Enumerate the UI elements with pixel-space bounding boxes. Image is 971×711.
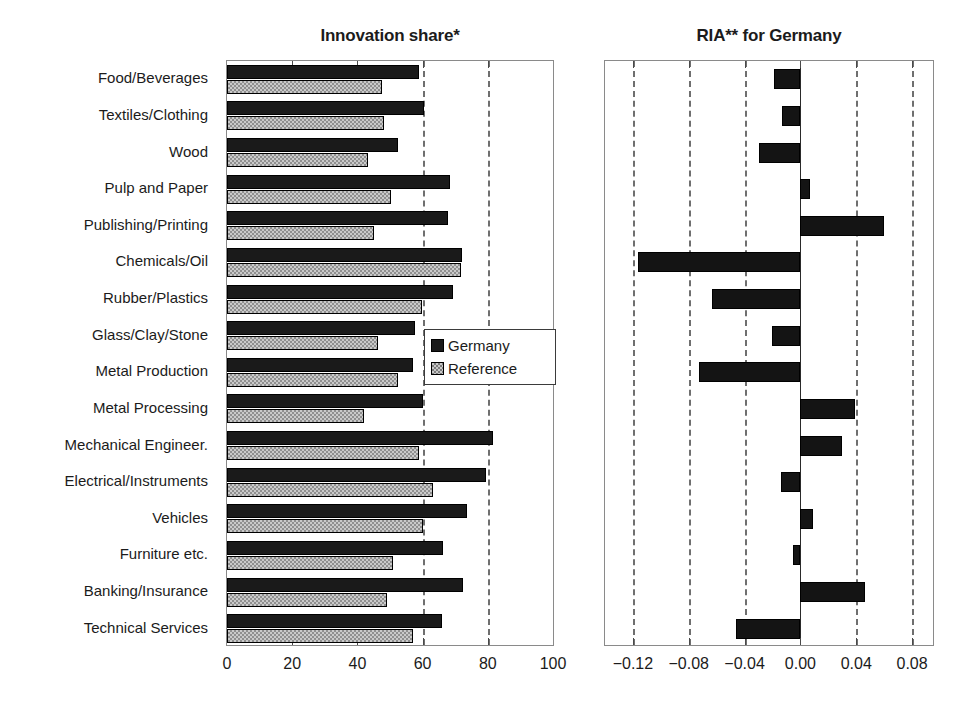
bar-ria (800, 179, 810, 199)
bar-ria (774, 69, 801, 89)
category-label: Food/Beverages (98, 69, 208, 87)
axis-tick-mark (856, 61, 857, 68)
bar-ria (800, 399, 854, 419)
bar-reference (227, 263, 461, 277)
bar-reference (227, 190, 391, 204)
bar-germany (227, 101, 424, 115)
bar-germany (227, 614, 442, 628)
legend-entry-reference: Reference (431, 357, 549, 380)
x-tick-label: 0.00 (785, 655, 816, 673)
bar-ria (736, 619, 800, 639)
bar-reference (227, 556, 393, 570)
bar-germany (227, 321, 415, 335)
gridline (912, 61, 914, 645)
legend-entry-germany: Germany (431, 334, 549, 357)
axis-tick-mark (633, 638, 634, 645)
x-tick-label: 20 (283, 655, 301, 673)
bar-reference (227, 629, 413, 643)
x-tick-label: −0.12 (613, 655, 653, 673)
x-axis-labels-ria: −0.12−0.08−0.040.000.040.08 (604, 655, 934, 681)
bar-ria (781, 472, 801, 492)
category-label: Technical Services (84, 619, 208, 637)
chart-title-left: Innovation share* (226, 26, 554, 46)
bar-germany (227, 504, 467, 518)
axis-tick-mark (745, 638, 746, 645)
bar-germany (227, 394, 423, 408)
bar-reference (227, 116, 384, 130)
bar-reference (227, 409, 364, 423)
legend-swatch-reference-icon (431, 362, 444, 375)
bar-reference (227, 483, 433, 497)
bar-ria (800, 216, 884, 236)
bar-germany (227, 358, 413, 372)
bar-reference (227, 593, 387, 607)
category-label: Pulp and Paper (105, 179, 208, 197)
axis-tick-mark (800, 638, 801, 645)
bar-germany (227, 541, 443, 555)
x-axis-labels-innovation-share: 020406080100 (226, 655, 554, 681)
x-tick-label: 60 (414, 655, 432, 673)
bar-germany (227, 175, 450, 189)
gridline (633, 61, 635, 645)
plot-area-ria (605, 61, 933, 645)
bar-ria (782, 106, 800, 126)
bar-ria (712, 289, 800, 309)
axis-tick-mark (689, 61, 690, 68)
chart-title-right: RIA** for Germany (604, 26, 934, 46)
bar-germany (227, 578, 463, 592)
axis-tick-mark (856, 638, 857, 645)
bar-germany (227, 248, 462, 262)
axis-tick-mark (488, 638, 489, 645)
axis-tick-mark (423, 61, 424, 68)
bar-reference (227, 336, 378, 350)
bar-ria (800, 582, 864, 602)
bar-germany (227, 65, 419, 79)
x-tick-label: −0.08 (668, 655, 708, 673)
legend-swatch-germany-icon (431, 339, 444, 352)
bar-germany (227, 431, 493, 445)
x-tick-label: −0.04 (724, 655, 764, 673)
x-tick-label: 100 (540, 655, 567, 673)
bar-ria (638, 252, 800, 272)
category-label: Glass/Clay/Stone (92, 326, 208, 344)
bar-germany (227, 285, 453, 299)
x-tick-label: 80 (479, 655, 497, 673)
axis-tick-mark (800, 61, 801, 68)
bar-germany (227, 138, 398, 152)
zero-axis-line (800, 61, 801, 645)
gridline (745, 61, 747, 645)
category-label: Furniture etc. (120, 545, 208, 563)
legend-label-germany: Germany (448, 338, 510, 353)
category-label: Textiles/Clothing (99, 106, 208, 124)
bar-reference (227, 153, 368, 167)
bar-ria (793, 545, 800, 565)
category-label: Chemicals/Oil (115, 252, 208, 270)
axis-tick-mark (423, 638, 424, 645)
gridline (856, 61, 858, 645)
category-label: Metal Production (95, 362, 208, 380)
chart-panel-ria (604, 60, 934, 646)
bar-reference (227, 446, 419, 460)
bar-reference (227, 519, 423, 533)
category-label: Rubber/Plastics (103, 289, 208, 307)
axis-tick-mark (912, 638, 913, 645)
figure-root: Innovation share* RIA** for Germany Food… (0, 0, 971, 711)
category-label: Mechanical Engineer. (65, 436, 208, 454)
category-label: Wood (169, 143, 208, 161)
bar-germany (227, 211, 448, 225)
category-label: Electrical/Instruments (65, 472, 208, 490)
bar-ria (772, 326, 800, 346)
x-tick-label: 0.08 (896, 655, 927, 673)
category-label: Publishing/Printing (84, 216, 208, 234)
bar-ria (699, 362, 801, 382)
x-tick-label: 0.04 (841, 655, 872, 673)
x-tick-label: 0 (223, 655, 232, 673)
bar-ria (759, 143, 801, 163)
bar-reference (227, 226, 374, 240)
axis-tick-mark (633, 61, 634, 68)
bar-reference (227, 80, 382, 94)
category-label: Banking/Insurance (84, 582, 208, 600)
category-label: Vehicles (152, 509, 208, 527)
axis-tick-mark (912, 61, 913, 68)
axis-tick-mark (689, 638, 690, 645)
